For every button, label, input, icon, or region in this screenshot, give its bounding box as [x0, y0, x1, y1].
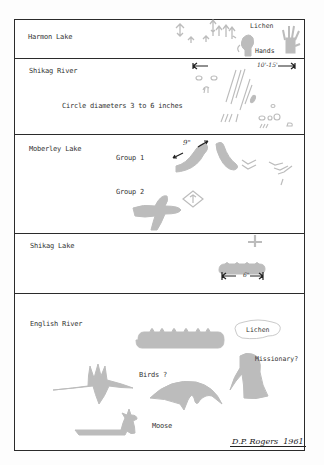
- signature: D.P. Rogers 1961: [230, 437, 306, 447]
- signature-year: 1961: [283, 437, 303, 446]
- section-title-harmon-lake: Harmon Lake: [28, 33, 72, 41]
- annotation-missionary: Missionary?: [255, 355, 298, 363]
- section-divider: [15, 233, 304, 234]
- annotation-group-1: Group 1: [116, 154, 144, 162]
- annotation-group-2: Group 2: [116, 188, 144, 196]
- section-title-shikag-lake: Shikag Lake: [30, 242, 74, 250]
- signature-name: D.P. Rogers: [232, 437, 278, 446]
- section-title-english-river: English River: [30, 320, 82, 328]
- section-divider: [15, 58, 304, 59]
- annotation-lichen: Lichen: [250, 22, 273, 30]
- dimension-label-9in: 9": [183, 139, 191, 147]
- annotation-lichen-2: Lichen: [246, 326, 269, 334]
- annotation-moose: Moose: [152, 422, 172, 430]
- annotation-circle-diameters: Circle diameters 3 to 6 inches: [62, 102, 182, 110]
- pictograph-plate-frame: [14, 19, 305, 451]
- section-divider: [15, 134, 304, 135]
- section-title-moberley-lake: Moberley Lake: [29, 145, 81, 153]
- section-title-shikag-river: Shikag River: [29, 67, 77, 75]
- dimension-label-6in: 6": [243, 271, 250, 278]
- annotation-hands: Hands: [255, 47, 275, 55]
- dimension-label-10-15ft: 10'-15': [257, 61, 278, 68]
- annotation-birds: Birds ?: [139, 371, 167, 379]
- section-divider: [15, 293, 304, 294]
